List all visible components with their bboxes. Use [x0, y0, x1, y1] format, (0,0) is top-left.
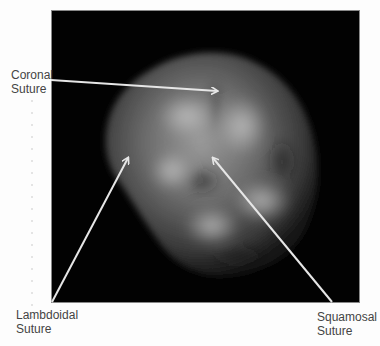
label-line: Suture: [317, 324, 377, 338]
label-line: Lambdoidal: [16, 308, 78, 322]
page-show-through: [31, 100, 33, 330]
label-line: Suture: [16, 322, 78, 336]
ultrasound-image: [51, 10, 360, 303]
label-line: Suture: [11, 82, 53, 96]
skull-rendering: [52, 11, 360, 303]
label-line: Squamosal: [317, 310, 377, 324]
label-line: Coronal: [11, 68, 53, 82]
coronal-suture-label: Coronal Suture: [11, 68, 53, 96]
squamosal-suture-label: Squamosal Suture: [317, 310, 377, 338]
lambdoidal-suture-label: Lambdoidal Suture: [16, 308, 78, 336]
